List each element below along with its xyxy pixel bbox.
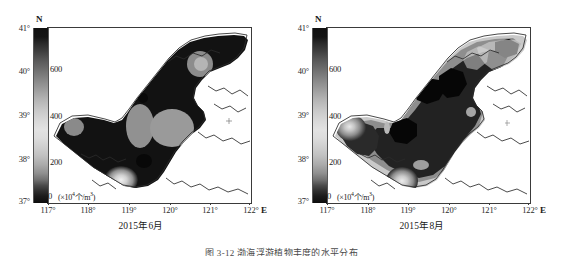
colorbar-tick-600: 600 (50, 64, 62, 74)
x-tick-121: 121° (195, 205, 225, 215)
colorbar-tick-400: 400 (50, 111, 62, 121)
x-tick-117-right: 117° (312, 205, 342, 215)
colorbar-tick-400-right: 400 (329, 111, 341, 121)
colorbar-tick-600-right: 600 (329, 64, 341, 74)
subcaption-august: 2015年8月 (281, 218, 563, 232)
y-tick-41-right: 41° (283, 23, 309, 33)
unit-prefix-right: (×10 (337, 193, 351, 202)
colorbar-august (312, 28, 328, 203)
y-tick-40-right: 40° (283, 66, 309, 76)
figure-caption: 图 3-12 渤海浮游植物丰度的水平分布 (0, 246, 563, 256)
colorbar-unit-label: (×104个/m3) (58, 191, 95, 202)
figure-root: N 41° 40° 39° 38° 37° 117° 118° 119° 120… (0, 0, 563, 256)
y-tick-39: 39° (4, 110, 30, 120)
y-axis-direction-label: N (36, 14, 43, 24)
x-tick-119-right: 119° (393, 205, 423, 215)
map-plot-area-august (326, 27, 531, 204)
x-axis-direction-label-right: E (540, 205, 546, 215)
patch-mid-liaodong-core (194, 57, 208, 71)
patch-small-east-august (466, 107, 476, 117)
x-axis-direction-label: E (261, 205, 267, 215)
map-svg-august (327, 28, 530, 203)
colorbar-tick-200-right: 200 (329, 157, 341, 167)
x-tick-119: 119° (114, 205, 144, 215)
unit-close: ) (93, 193, 95, 202)
x-tick-117: 117° (33, 205, 63, 215)
x-tick-118-right: 118° (353, 205, 383, 215)
y-tick-37-right: 37° (283, 196, 309, 206)
colorbar-tick-0: 0 (48, 191, 52, 201)
colorbar-june (33, 28, 49, 203)
core-dark-south (136, 154, 152, 168)
x-tick-120: 120° (155, 205, 185, 215)
colorbar-gradient (34, 28, 48, 203)
map-svg-june (48, 28, 251, 203)
patch-mid-central-w (126, 104, 154, 148)
map-plot-area-june (47, 27, 252, 204)
colorbar-tick-0-right: 0 (327, 191, 331, 201)
patch-mid-south-august (413, 160, 429, 170)
unit-suffix: 个/m (75, 193, 91, 202)
y-axis-direction-label-right: N (315, 14, 322, 24)
unit-close-right: ) (372, 193, 374, 202)
panel-june: N 41° 40° 39° 38° 37° 117° 118° 119° 120… (0, 0, 282, 256)
patch-small-west-august (384, 122, 390, 134)
panel-august: N 41° 40° 39° 38° 37° 117° 118° 119° 120… (281, 0, 563, 256)
colorbar-unit-label-right: (×104个/m3) (337, 191, 374, 202)
x-tick-120-right: 120° (434, 205, 464, 215)
x-tick-121-right: 121° (474, 205, 504, 215)
unit-prefix: (×10 (58, 193, 72, 202)
unit-suffix-right: 个/m (354, 193, 370, 202)
y-tick-39-right: 39° (283, 110, 309, 120)
x-tick-118: 118° (73, 205, 103, 215)
y-tick-38-right: 38° (283, 154, 309, 164)
colorbar-tick-200: 200 (50, 157, 62, 167)
colorbar-gradient-august (313, 28, 327, 203)
y-tick-40: 40° (4, 66, 30, 76)
y-tick-41: 41° (4, 23, 30, 33)
y-tick-38: 38° (4, 154, 30, 164)
y-tick-37: 37° (4, 196, 30, 206)
subcaption-june: 2015年6月 (0, 218, 282, 232)
